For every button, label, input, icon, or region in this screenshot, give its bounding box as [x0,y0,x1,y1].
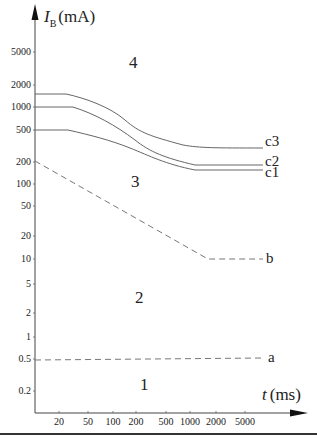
bottom-rule [0,433,317,435]
curve-a [35,358,263,360]
x-tick-labels: 20 50 100 200 500 1000 2000 5000 [54,416,255,427]
svg-text:5: 5 [26,278,31,289]
svg-text:500: 500 [159,416,174,427]
region-2-label: 2 [135,288,144,307]
svg-text:10: 10 [21,253,31,264]
svg-text:100: 100 [106,416,121,427]
svg-text:100: 100 [16,178,31,189]
svg-text:5000: 5000 [11,46,31,57]
svg-text:50: 50 [21,200,31,211]
svg-text:200: 200 [16,156,31,167]
svg-text:200: 200 [129,416,144,427]
svg-text:5000: 5000 [235,416,255,427]
svg-text:2: 2 [26,307,31,318]
svg-text:2000: 2000 [206,416,226,427]
svg-text:20: 20 [21,230,31,241]
svg-text:20: 20 [54,416,64,427]
svg-text:1000: 1000 [180,416,200,427]
curve-a-label: a [268,349,275,365]
svg-text:1000: 1000 [11,101,31,112]
y-tick-labels: 5000 2000 1000 500 200 100 50 20 10 5 2 … [11,46,31,396]
region-3-label: 3 [131,172,140,191]
svg-text:0.5: 0.5 [19,353,32,364]
svg-text:500: 500 [16,124,31,135]
svg-text:50: 50 [83,416,93,427]
chart: IB(mA) t(ms) 5000 2000 1000 500 200 100 … [0,0,317,440]
curve-c3-label: c3 [265,133,279,149]
y-axis-title: IB(mA) [43,7,95,29]
curve-b [35,161,263,259]
x-axis-arrow-icon [290,410,308,417]
curve-b-label: b [266,250,274,266]
svg-text:0.2: 0.2 [19,385,32,396]
svg-text:1: 1 [26,331,31,342]
curve-c1 [35,130,263,170]
y-axis-arrow-icon [32,4,39,20]
curve-c3 [35,94,263,148]
x-axis-title: t(ms) [262,385,301,404]
curve-c2-label: c2 [265,153,279,169]
region-4-label: 4 [129,53,138,72]
region-1-label: 1 [140,375,149,394]
svg-text:2000: 2000 [11,79,31,90]
